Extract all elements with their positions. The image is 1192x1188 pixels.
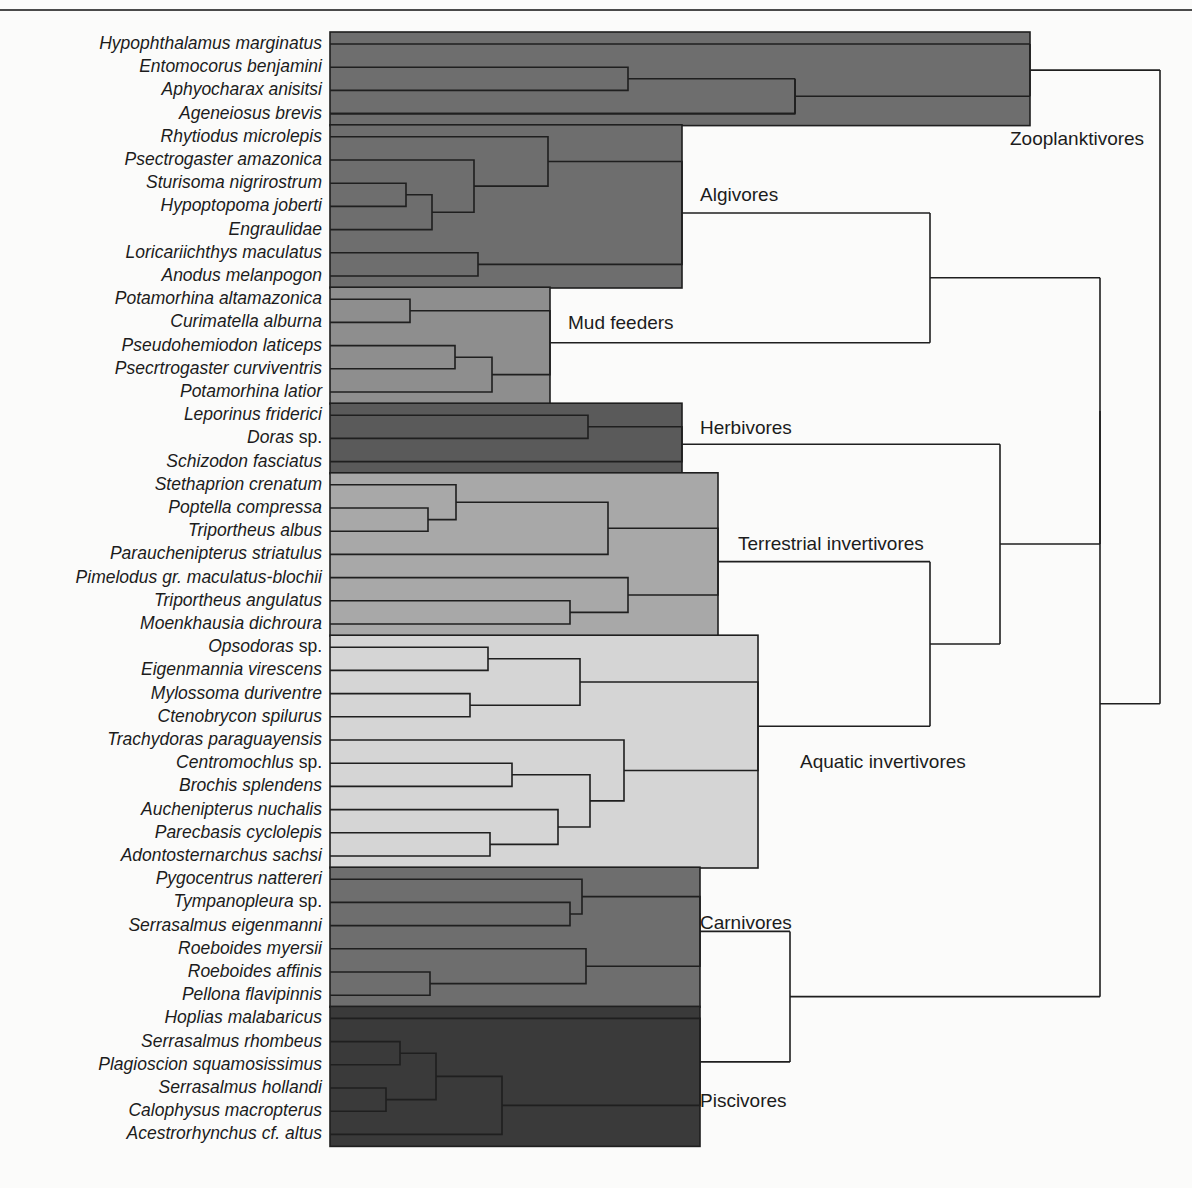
taxon-label: Pellona flavipinnis	[182, 984, 322, 1004]
taxon-label: Engraulidae	[229, 218, 323, 238]
taxon-label: Stethaprion crenatum	[155, 473, 322, 493]
guild-label-algivores: Algivores	[700, 184, 778, 205]
taxon-label: Triportheus albus	[188, 520, 322, 540]
taxon-label: Rhytiodus microlepis	[161, 125, 323, 145]
taxon-label: Moenkhausia dichroura	[140, 613, 322, 633]
taxon-label: Mylossoma duriventre	[151, 682, 322, 702]
guild-block-piscivores	[330, 1006, 700, 1146]
taxon-label: Serrasalmus hollandi	[159, 1077, 324, 1097]
guild-label-piscivores: Piscivores	[700, 1090, 787, 1111]
taxon-label: Trachydoras paraguayensis	[107, 729, 322, 749]
taxon-label: Schizodon fasciatus	[166, 450, 322, 470]
taxon-label: Triportheus angulatus	[154, 589, 322, 609]
dendrogram-figure: Hypophthalamus marginatusEntomocorus ben…	[0, 0, 1192, 1188]
taxon-label: Acestrorhynchus cf. altus	[126, 1123, 323, 1143]
taxon-label: Adontosternarchus sachsi	[120, 845, 323, 865]
guild-block-carnivores	[330, 867, 700, 1007]
taxon-label: Roeboides affinis	[188, 961, 322, 981]
taxon-label: Calophysus macropterus	[128, 1100, 322, 1120]
taxon-label: Hoplias malabaricus	[164, 1007, 322, 1027]
taxon-label: Poptella compressa	[168, 497, 322, 517]
taxon-label: Ctenobrycon spilurus	[158, 705, 323, 725]
guild-label-aquatic-invertivores: Aquatic invertivores	[800, 751, 966, 772]
taxon-label: Pygocentrus nattereri	[156, 868, 323, 888]
taxon-label: Centromochlus sp.	[176, 752, 322, 772]
taxon-label: Serrasalmus eigenmanni	[128, 914, 323, 934]
taxon-label: Doras sp.	[247, 427, 322, 447]
taxon-label: Pimelodus gr. maculatus-blochii	[76, 566, 324, 586]
taxon-label: Roeboides myersii	[178, 937, 323, 957]
dendrogram-svg: Hypophthalamus marginatusEntomocorus ben…	[0, 0, 1192, 1188]
guild-label-zooplanktivores: Zooplanktivores	[1010, 128, 1144, 149]
taxon-label: Auchenipterus nuchalis	[140, 798, 322, 818]
taxon-label: Curimatella alburna	[170, 311, 322, 331]
taxon-label: Opsodoras sp.	[208, 636, 322, 656]
taxon-label: Parecbasis cyclolepis	[155, 821, 323, 841]
guild-label-terrestrial-invertivores: Terrestrial invertivores	[738, 533, 924, 554]
taxon-label: Potamorhina latior	[180, 381, 323, 401]
taxon-label: Sturisoma nigrirostrum	[146, 172, 322, 192]
taxon-label: Leporinus friderici	[184, 404, 323, 424]
top-rule	[0, 9, 1192, 11]
taxon-label: Hypoptopoma joberti	[161, 195, 324, 215]
taxon-label: Eigenmannia virescens	[141, 659, 322, 679]
taxon-label: Psecrtrogaster curviventris	[115, 357, 322, 377]
guild-label-mud-feeders: Mud feeders	[568, 312, 674, 333]
guild-label-herbivores: Herbivores	[700, 417, 792, 438]
taxon-label: Loricariichthys maculatus	[126, 241, 323, 261]
taxon-label: Plagioscion squamosissimus	[98, 1053, 322, 1073]
taxon-label: Tympanopleura sp.	[173, 891, 322, 911]
taxon-label: Pseudohemiodon laticeps	[122, 334, 323, 354]
taxon-label: Parauchenipterus striatulus	[110, 543, 322, 563]
taxon-label: Brochis splendens	[179, 775, 322, 795]
taxon-label: Psectrogaster amazonica	[125, 149, 323, 169]
taxon-label: Potamorhina altamazonica	[115, 288, 322, 308]
taxon-label: Anodus melanpogon	[160, 265, 322, 285]
guild-label-carnivores: Carnivores	[700, 912, 792, 933]
taxon-label: Hypophthalamus marginatus	[99, 33, 322, 53]
taxon-label: Serrasalmus rhombeus	[141, 1030, 322, 1050]
taxon-label: Ageneiosus brevis	[178, 102, 322, 122]
taxon-label: Aphyocharax anisitsi	[161, 79, 324, 99]
taxon-label: Entomocorus benjamini	[139, 56, 323, 76]
